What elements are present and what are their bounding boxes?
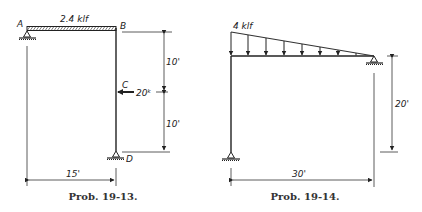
distributed-load-label: 2.4 klf [60, 14, 90, 24]
pin-support-icon [107, 151, 124, 160]
pin-support-icon [222, 152, 240, 161]
uniform-load-hatch [27, 27, 116, 31]
joint-d-label: D [126, 154, 133, 164]
pin-support-icon [366, 56, 383, 65]
pin-support-icon [19, 31, 36, 40]
joint-a-label: A [16, 19, 23, 29]
caption-19-14: Prob. 19-14. [271, 191, 340, 202]
triangular-load-label: 4 klf [233, 21, 254, 31]
point-load-label: 20ᵏ [136, 88, 151, 98]
dimension-upper-label: 10' [166, 57, 180, 67]
dimension-horizontal-label: 30' [292, 169, 306, 179]
problem-19-13-figure: 2.4 klf A B D C 20ᵏ 10' 10' [16, 14, 180, 202]
caption-19-13: Prob. 19-13. [69, 191, 138, 202]
problem-19-14-figure: 4 klf 20' [222, 21, 409, 202]
dimension-lower-label: 10' [166, 119, 180, 129]
dimension-vertical-label: 20' [395, 99, 409, 109]
dimension-horizontal-label: 15' [66, 169, 80, 179]
diagram-canvas: 2.4 klf A B D C 20ᵏ 10' 10' [0, 0, 422, 212]
joint-b-label: B [120, 21, 126, 31]
joint-c-label: C [122, 80, 129, 90]
